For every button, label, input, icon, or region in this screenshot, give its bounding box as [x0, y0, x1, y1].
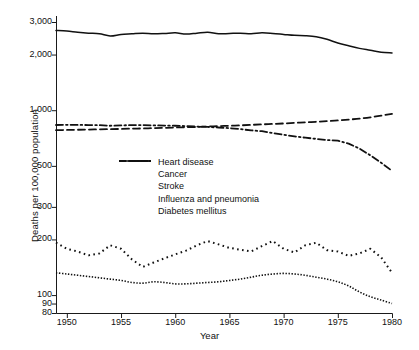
legend-item: Cancer: [118, 168, 259, 180]
x-axis-label: Year: [0, 330, 419, 341]
x-tick-label: 1950: [47, 317, 87, 327]
legend-item: Stroke: [118, 180, 259, 192]
x-tick-label: 1960: [155, 317, 195, 327]
legend-label: Cancer: [158, 168, 187, 180]
series-line-diabetes-mellitus: [56, 273, 392, 304]
legend-line-swatch: [118, 169, 152, 179]
legend-item: Diabetes mellitus: [118, 205, 259, 217]
x-tick-label: 1965: [209, 317, 249, 327]
legend-line-swatch: [118, 206, 152, 216]
mortality-rate-chart: Deaths per 100,000 population 3,0002,000…: [0, 0, 419, 350]
series-line-influenza-and-pneumonia: [56, 241, 392, 273]
x-tick-label: 1980: [372, 317, 412, 327]
legend-line-swatch: [118, 194, 152, 204]
legend-item: Influenza and pneumonia: [118, 193, 259, 205]
chart-legend: Heart diseaseCancerStrokeInfluenza and p…: [118, 156, 259, 217]
legend-label: Influenza and pneumonia: [158, 193, 259, 205]
legend-label: Stroke: [158, 180, 184, 192]
legend-line-swatch: [118, 181, 152, 191]
series-line-heart-disease: [56, 30, 392, 53]
x-tick-label: 1975: [318, 317, 358, 327]
x-tick-label: 1955: [101, 317, 141, 327]
legend-label: Heart disease: [158, 156, 214, 168]
legend-label: Diabetes mellitus: [158, 205, 227, 217]
x-tick-label: 1970: [264, 317, 304, 327]
